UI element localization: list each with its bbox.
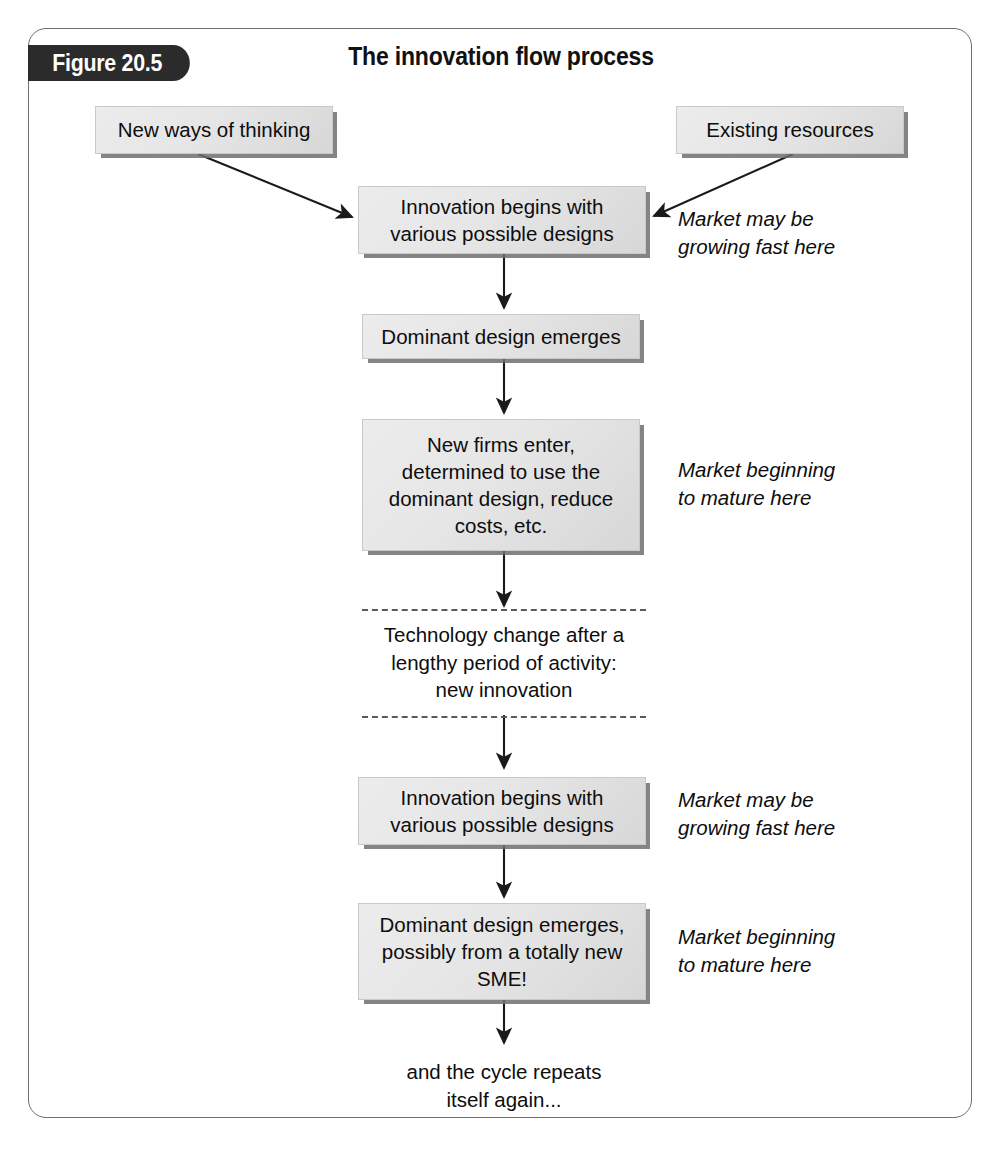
figure-title-text: The innovation flow process	[348, 42, 654, 70]
node-new-firms-line3: dominant design, reduce	[389, 485, 614, 512]
node-new-ways-of-thinking: New ways of thinking	[95, 106, 333, 154]
node-innovation-begins-1-line1: Innovation begins with	[390, 193, 613, 220]
figure-number-label: Figure 20.5	[52, 50, 162, 77]
node-dominant-design-1: Dominant design emerges	[362, 314, 640, 359]
node-existing-resources-label: Existing resources	[706, 118, 873, 141]
node-new-firms-line2: determined to use the	[389, 458, 614, 485]
figure-number-badge: Figure 20.5	[28, 45, 190, 81]
node-technology-change: Technology change after a lengthy period…	[362, 609, 646, 718]
node-dominant-design-1-label: Dominant design emerges	[381, 325, 620, 348]
annotation-market-growing-2: Market may be growing fast here	[678, 786, 918, 843]
node-dominant-design-2-line1: Dominant design emerges,	[380, 911, 625, 938]
node-technology-change-line1: Technology change after a	[362, 621, 646, 649]
node-existing-resources: Existing resources	[676, 106, 904, 154]
annotation-market-mature-2: Market beginning to mature here	[678, 923, 918, 980]
node-technology-change-line2: lengthy period of activity:	[362, 649, 646, 677]
node-innovation-begins-2: Innovation begins with various possible …	[358, 777, 646, 845]
node-new-firms-line1: New firms enter,	[389, 431, 614, 458]
node-innovation-begins-1-line2: various possible designs	[390, 220, 613, 247]
node-technology-change-line3: new innovation	[362, 676, 646, 704]
node-cycle-repeats: and the cycle repeats itself again...	[354, 1058, 654, 1113]
node-cycle-repeats-line1: and the cycle repeats	[354, 1058, 654, 1086]
node-new-ways-label: New ways of thinking	[118, 118, 311, 141]
node-cycle-repeats-line2: itself again...	[354, 1086, 654, 1114]
node-innovation-begins-2-line1: Innovation begins with	[390, 784, 613, 811]
node-dominant-design-2-line2: possibly from a totally new	[380, 938, 625, 965]
annotation-market-growing-1: Market may be growing fast here	[678, 205, 918, 262]
node-dominant-design-2: Dominant design emerges, possibly from a…	[358, 903, 646, 1000]
node-innovation-begins-1: Innovation begins with various possible …	[358, 186, 646, 254]
node-innovation-begins-2-line2: various possible designs	[390, 811, 613, 838]
annotation-market-mature-1: Market beginning to mature here	[678, 456, 918, 513]
node-new-firms-line4: costs, etc.	[389, 512, 614, 539]
node-new-firms-enter: New firms enter, determined to use the d…	[362, 419, 640, 551]
node-dominant-design-2-line3: SME!	[380, 965, 625, 992]
